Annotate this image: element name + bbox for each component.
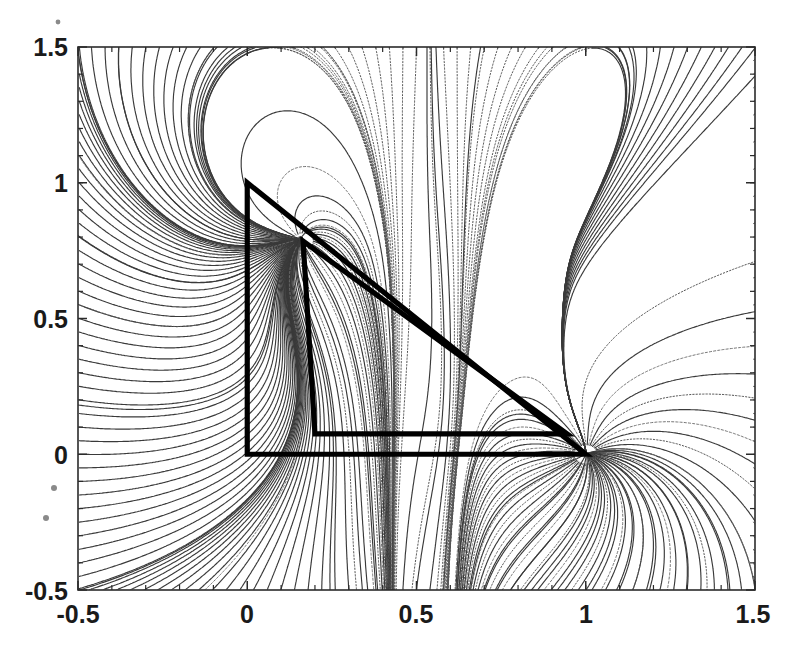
scan-speck — [56, 20, 61, 25]
figure-container: -0.5 0 0.5 1 1.5 -0.5 0 0.5 1 1.5 — [0, 0, 805, 651]
x-tick-label: 1.5 — [736, 600, 771, 628]
y-tick-label: 1 — [54, 169, 68, 197]
scan-speck — [51, 485, 57, 491]
x-tick-label: 0.5 — [399, 600, 434, 628]
y-tick-label: 1.5 — [33, 33, 68, 61]
x-tick-label: 0 — [240, 600, 254, 628]
y-tick-label: 0 — [54, 441, 68, 469]
streamline-plot: -0.5 0 0.5 1 1.5 -0.5 0 0.5 1 1.5 — [0, 0, 805, 651]
y-tick-label: 0.5 — [33, 305, 68, 333]
x-tick-label: 1 — [579, 600, 593, 628]
scan-speck — [43, 515, 49, 521]
y-tick-label: -0.5 — [25, 577, 68, 605]
